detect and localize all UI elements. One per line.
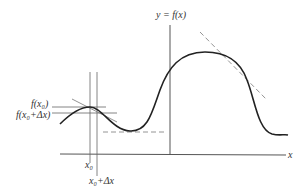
x0-label: x₀ [84, 159, 93, 170]
f-x0-dx-label: f(x₀+Δx) [16, 109, 51, 121]
x-axis-label: x [287, 149, 293, 160]
function-diagram: y = f(x) x f(x₀) f(x₀+Δx) x₀ x₀+Δx [0, 0, 306, 195]
function-curve [60, 52, 288, 135]
x0-dx-label: x₀+Δx [88, 175, 115, 186]
tangent-on-right-slope [200, 32, 267, 100]
y-axis-label: y = f(x) [155, 9, 187, 21]
x-axis [60, 154, 286, 155]
